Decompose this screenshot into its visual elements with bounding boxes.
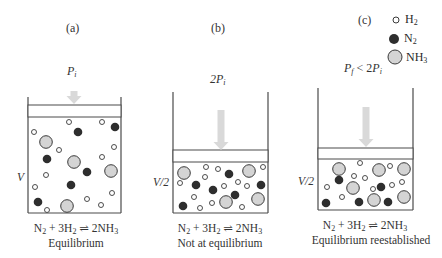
- pressure-label-c: Pf < 2Pi: [344, 61, 382, 75]
- volume-label-a: V: [17, 170, 24, 184]
- nh3-molecule-icon: [368, 194, 381, 207]
- nh3-molecule-icon: [40, 136, 53, 149]
- caption-b: Not at equilibrium: [170, 236, 270, 250]
- equation-a: N2 + 3H2 ⇌ 2NH3: [30, 221, 122, 235]
- nh3-molecule-icon: [243, 165, 256, 178]
- caption-c: Equilibrium reestablished: [300, 233, 442, 247]
- n2-molecule-icon: [192, 181, 201, 190]
- equation-c: N2 + 3H2 ⇌ 2NH3: [312, 218, 418, 232]
- piston-a: [28, 105, 121, 117]
- h2-molecule-icon: [32, 130, 37, 135]
- equation-b: N2 + 3H2 ⇌ 2NH3: [170, 221, 270, 235]
- h2-molecule-icon: [85, 197, 90, 202]
- volume-label-b: V/2: [153, 175, 169, 189]
- h2-molecule-icon: [358, 161, 363, 166]
- nh3-molecule-icon: [333, 163, 346, 176]
- h2-molecule-icon: [222, 184, 227, 189]
- pressure-arrow-icon-c: [359, 107, 374, 147]
- h2-molecule-icon: [210, 201, 215, 206]
- nh3-molecule-icon: [61, 200, 74, 213]
- h2-molecule-icon: [400, 180, 405, 185]
- legend-n2: N2: [388, 31, 417, 46]
- nh3-molecule-icon: [387, 49, 403, 65]
- figure: (a) Pi V N2 + 3H2 ⇌ 2NH3 Equilibrium (b)…: [0, 0, 442, 258]
- nh3-molecule-icon: [398, 163, 411, 176]
- pressure-label-a: Pi: [67, 64, 77, 78]
- h2-molecule-icon: [204, 165, 209, 170]
- h2-molecule-icon: [99, 203, 104, 208]
- nh3-molecule-icon: [347, 182, 360, 195]
- n2-molecule-icon: [388, 33, 400, 45]
- h2-molecule-icon: [67, 120, 72, 125]
- n2-molecule-icon: [34, 198, 43, 207]
- legend-nh3: NH3: [387, 49, 427, 65]
- legend-h2: H2: [391, 12, 418, 27]
- h2-molecule-icon: [236, 180, 241, 185]
- n2-molecule-icon: [43, 155, 52, 164]
- n2-molecule-icon: [209, 186, 218, 195]
- n2-molecule-icon: [111, 123, 120, 132]
- h2-molecule-icon: [325, 185, 330, 190]
- h2-molecule-icon: [245, 184, 250, 189]
- h2-molecule-icon: [352, 174, 357, 179]
- h2-molecule-icon: [388, 164, 393, 169]
- n2-molecule-icon: [225, 170, 234, 179]
- h2-molecule-icon: [340, 195, 345, 200]
- h2-molecule-icon: [240, 205, 245, 210]
- n2-molecule-icon: [74, 128, 83, 137]
- n2-molecule-icon: [355, 198, 364, 207]
- h2-molecule-icon: [390, 183, 395, 188]
- n2-molecule-icon: [83, 168, 92, 177]
- n2-molecule-icon: [67, 181, 76, 190]
- volume-label-c: V/2: [298, 174, 314, 188]
- nh3-molecule-icon: [68, 156, 81, 169]
- panel-label-c: (c): [358, 13, 371, 27]
- caption-a: Equilibrium: [30, 236, 122, 250]
- h2-molecule-icon: [391, 15, 401, 25]
- panel-label-b: (b): [211, 21, 225, 35]
- h2-molecule-icon: [261, 165, 266, 170]
- h2-molecule-icon: [44, 173, 49, 178]
- nh3-molecule-icon: [105, 165, 118, 178]
- nh3-molecule-icon: [398, 191, 411, 204]
- nh3-molecule-icon: [373, 164, 386, 177]
- pressure-arrow-icon-a: [67, 91, 82, 104]
- h2-molecule-icon: [45, 208, 50, 213]
- piston-b: [173, 150, 268, 162]
- h2-molecule-icon: [112, 145, 117, 150]
- nh3-molecule-icon: [252, 193, 265, 206]
- h2-molecule-icon: [33, 185, 38, 190]
- nh3-molecule-icon: [178, 167, 191, 180]
- h2-molecule-icon: [57, 148, 62, 153]
- h2-molecule-icon: [100, 120, 105, 125]
- h2-molecule-icon: [178, 181, 183, 186]
- pressure-label-b: 2Pi: [210, 72, 226, 86]
- h2-molecule-icon: [203, 175, 208, 180]
- n2-molecule-icon: [335, 176, 344, 185]
- piston-c: [318, 148, 413, 159]
- n2-molecule-icon: [179, 202, 188, 211]
- h2-molecule-icon: [198, 206, 203, 211]
- h2-molecule-icon: [192, 195, 197, 200]
- n2-molecule-icon: [384, 198, 393, 207]
- h2-molecule-icon: [110, 191, 115, 196]
- panel-label-a: (a): [66, 21, 79, 35]
- pressure-arrow-icon-b: [214, 110, 229, 150]
- n2-molecule-icon: [322, 199, 331, 208]
- n2-molecule-icon: [231, 191, 240, 200]
- h2-molecule-icon: [100, 155, 105, 160]
- nh3-molecule-icon: [220, 196, 233, 209]
- n2-molecule-icon: [377, 183, 386, 192]
- h2-molecule-icon: [216, 167, 221, 172]
- h2-molecule-icon: [363, 176, 368, 181]
- n2-molecule-icon: [257, 181, 266, 190]
- h2-molecule-icon: [371, 187, 376, 192]
